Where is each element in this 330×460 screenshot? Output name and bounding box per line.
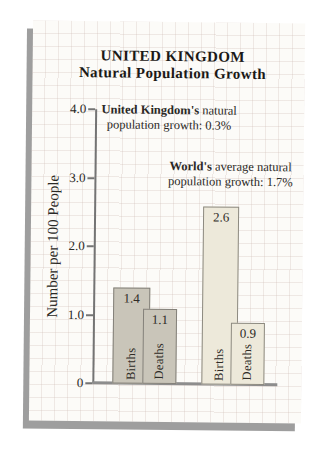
bars-container: 1.4Births1.1Deaths2.6Births0.9Deaths [33, 21, 305, 24]
bar-united-kingdom-deaths: 1.1Deaths [142, 309, 177, 384]
annotation-uk-rest: natural [199, 103, 237, 117]
annotation-world-line2: population growth: 1.7% [140, 173, 320, 189]
y-tick-label: 4.0 [56, 101, 86, 117]
bar-value-label: 1.1 [144, 312, 176, 328]
annotation-uk-line2: population growth: 0.3% [79, 117, 259, 133]
bar-world-deaths: 0.9Deaths [230, 323, 265, 385]
annotation-world-bold: World's [169, 159, 212, 173]
bar-category-label: Deaths [240, 344, 255, 381]
chart-title: UNITED KINGDOM Natural Population Growth [32, 47, 304, 84]
y-tick-label: 2.0 [55, 238, 85, 254]
scan-background: UNITED KINGDOM Natural Population Growth… [0, 0, 330, 460]
y-tick-mark [87, 177, 94, 179]
y-tick-label: 1.0 [54, 306, 84, 322]
annotation-world-rest: average natural [212, 159, 292, 174]
annotation-uk-line1: United Kingdom's natural [79, 102, 259, 118]
annotation-uk-bold: United Kingdom's [101, 102, 199, 117]
bar-value-label: 0.9 [232, 326, 264, 342]
y-tick-label: 3.0 [55, 169, 85, 185]
chart-page: UNITED KINGDOM Natural Population Growth… [29, 21, 305, 424]
y-tick-mark [88, 108, 95, 110]
bar-category-label: Births [123, 347, 138, 380]
chart-title-line2: Natural Population Growth [40, 64, 304, 84]
bar-category-label: Deaths [152, 343, 167, 380]
bar-category-label: Births [212, 348, 227, 381]
y-tick-label: 0 [53, 375, 83, 391]
bar-value-label: 1.4 [114, 290, 149, 306]
annotation-uk-growth: United Kingdom's natural population grow… [79, 102, 259, 133]
annotation-world-growth: World's average natural population growt… [140, 159, 320, 190]
bar-value-label: 2.6 [204, 209, 238, 225]
y-tick-mark [85, 382, 92, 384]
y-tick-mark [86, 314, 93, 316]
y-tick-mark [87, 245, 94, 247]
y-axis-ticks: 4.03.02.01.00 [33, 21, 305, 24]
